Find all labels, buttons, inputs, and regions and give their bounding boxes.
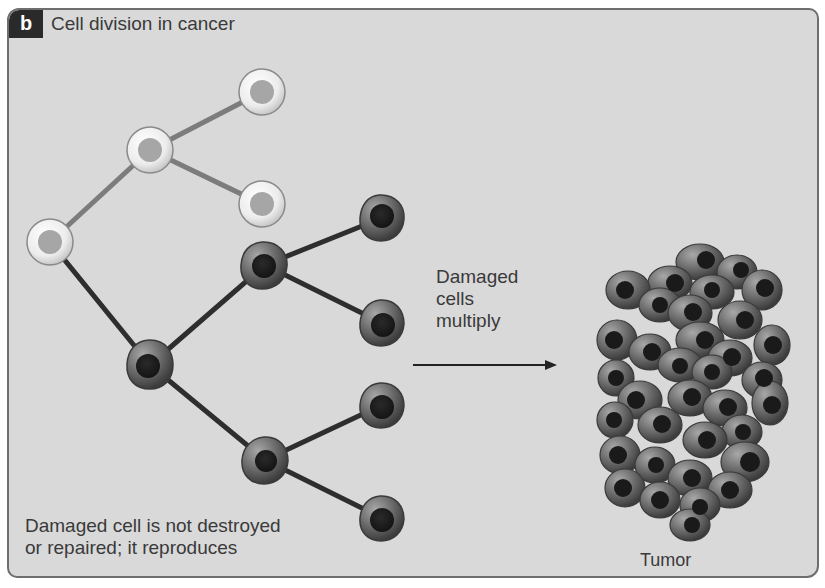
damaged-caption-line1: Damaged cell is not destroyed [25,515,281,537]
healthy-cell [239,69,285,115]
multiply-label-line2: cells [436,288,518,310]
damaged-cell [360,195,404,241]
damaged-cell [360,300,404,346]
multiply-label-line3: multiply [436,310,518,332]
damaged-cell-caption: Damaged cell is not destroyed or repaire… [25,515,281,559]
healthy-cell [239,181,285,227]
multiply-label: Damaged cells multiply [436,266,518,332]
tumor-cluster [597,244,790,541]
damaged-cell [242,437,288,484]
damaged-cell [127,340,173,389]
damaged-caption-line2: or repaired; it reproduces [25,537,281,559]
tumor-label: Tumor [640,549,691,571]
damaged-lineage-lines [50,218,382,518]
healthy-cell [27,219,73,265]
damaged-cell [360,496,404,541]
healthy-cell [127,127,173,173]
damaged-cell [241,242,287,289]
cell-division-diagram [0,0,825,588]
damaged-cell [360,383,404,428]
multiply-label-line1: Damaged [436,266,518,288]
